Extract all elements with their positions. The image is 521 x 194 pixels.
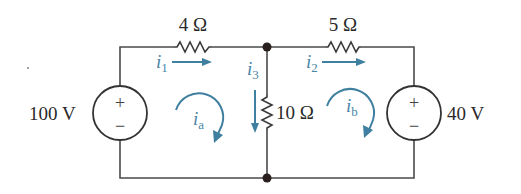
node-top <box>263 43 272 52</box>
resistor-4ohm-label: 4 Ω <box>179 14 207 35</box>
circuit-diagram: 4 Ω 5 Ω 10 Ω + − 100 V + − 40 V i1 i2 <box>0 0 521 194</box>
current-i2-label: i2 <box>306 51 318 75</box>
voltage-source-100v: + − 100 V <box>29 86 147 140</box>
current-i1-label: i1 <box>156 51 168 75</box>
current-i3: i3 <box>247 58 259 133</box>
resistor-10ohm: 10 Ω <box>262 94 314 131</box>
mesh-current-ia-label: ia <box>193 108 204 132</box>
current-i3-label: i3 <box>247 58 259 82</box>
mesh-current-ia: ia <box>176 93 223 143</box>
voltage-source-100v-label: 100 V <box>29 103 76 124</box>
resistor-4ohm: 4 Ω <box>174 14 212 52</box>
node-bottom <box>263 174 272 183</box>
voltage-source-40v-label: 40 V <box>447 103 484 124</box>
mesh-current-ib-label: ib <box>346 95 358 119</box>
minus-sign-left: − <box>115 116 125 136</box>
current-i1: i1 <box>156 51 212 75</box>
plus-sign-right: + <box>409 93 419 113</box>
voltage-source-40v: + − 40 V <box>387 86 484 140</box>
stray-mark <box>27 67 29 69</box>
arrow-right-icon <box>202 58 212 66</box>
wire-top-right <box>361 47 414 86</box>
resistor-5ohm: 5 Ω <box>325 14 361 52</box>
resistor-5ohm-label: 5 Ω <box>329 14 357 35</box>
minus-sign-right: − <box>409 116 419 136</box>
current-i2: i2 <box>306 51 366 75</box>
mesh-current-ib: ib <box>327 89 374 138</box>
arrow-down-icon <box>251 123 259 133</box>
resistor-10ohm-label: 10 Ω <box>276 102 314 123</box>
plus-sign-left: + <box>115 93 125 113</box>
arrow-right-icon <box>356 58 366 66</box>
